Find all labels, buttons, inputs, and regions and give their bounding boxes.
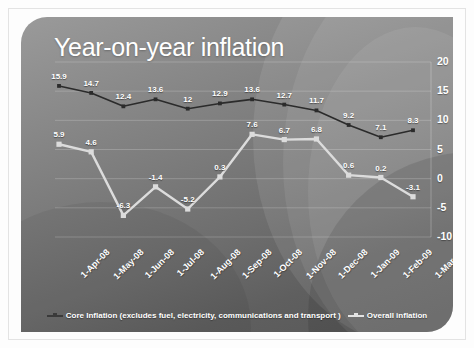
data-point-marker[interactable] <box>56 142 61 147</box>
data-point-label: 7.1 <box>375 123 386 132</box>
legend-label-core: Core Inflation (excludes fuel, electrici… <box>66 311 341 320</box>
data-point-marker[interactable] <box>121 104 125 108</box>
data-point-marker[interactable] <box>57 84 61 88</box>
data-point-label: -3.1 <box>406 183 420 192</box>
y-axis-tick-label: 0 <box>437 172 443 184</box>
legend-swatch-overall <box>348 315 364 317</box>
data-point-marker[interactable] <box>89 91 93 95</box>
data-point-marker[interactable] <box>217 174 222 179</box>
data-point-marker[interactable] <box>185 206 190 211</box>
data-point-label: 12.9 <box>212 89 228 98</box>
data-point-marker[interactable] <box>249 132 254 137</box>
gridlines-group <box>55 62 431 237</box>
data-point-label: 12.7 <box>276 91 292 100</box>
data-point-marker[interactable] <box>186 107 190 111</box>
data-point-label: 0.2 <box>375 164 386 173</box>
data-point-marker[interactable] <box>347 123 351 127</box>
data-point-marker[interactable] <box>282 137 287 142</box>
data-point-label: 12.4 <box>116 92 132 101</box>
chart-svg <box>21 17 453 332</box>
data-point-label: 6.7 <box>279 126 290 135</box>
slide-page: Year-on-year inflation -10-505101520 1-A… <box>0 0 474 348</box>
data-point-label: -5.2 <box>181 195 195 204</box>
data-point-marker[interactable] <box>153 184 158 189</box>
data-point-marker[interactable] <box>218 102 222 106</box>
data-point-label: 12 <box>183 95 192 104</box>
y-axis-tick-label: -5 <box>437 201 446 213</box>
y-axis-tick-label: -10 <box>437 230 452 242</box>
data-point-marker[interactable] <box>250 97 254 101</box>
data-point-label: 11.7 <box>309 96 324 105</box>
data-point-label: 5.9 <box>53 130 64 139</box>
y-axis-tick-label: 15 <box>437 84 449 96</box>
data-point-marker[interactable] <box>315 109 319 113</box>
data-point-label: 9.2 <box>343 111 354 120</box>
data-point-marker[interactable] <box>379 135 383 139</box>
data-point-marker[interactable] <box>346 173 351 178</box>
data-point-marker[interactable] <box>378 175 383 180</box>
data-point-marker[interactable] <box>411 128 415 132</box>
data-point-marker[interactable] <box>282 103 286 107</box>
series-line <box>59 86 413 137</box>
data-point-marker[interactable] <box>410 194 415 199</box>
series-line <box>59 134 413 215</box>
data-point-marker[interactable] <box>154 97 158 101</box>
data-point-label: -6.3 <box>116 201 130 210</box>
data-point-label: 15.9 <box>51 72 67 81</box>
data-point-label: -1.4 <box>149 173 163 182</box>
y-axis-tick-label: 10 <box>437 113 449 125</box>
data-point-label: 0.3 <box>214 163 225 172</box>
legend-label-overall: Overall inflation <box>367 311 427 320</box>
data-point-marker[interactable] <box>314 136 319 141</box>
data-point-label: 13.6 <box>148 85 164 94</box>
chart-plot-area: -10-505101520 1-Apr-081-May-081-Jun-081-… <box>21 17 453 332</box>
data-point-marker[interactable] <box>89 149 94 154</box>
legend-item-overall[interactable]: Overall inflation <box>348 311 427 320</box>
data-point-label: 8.3 <box>407 116 418 125</box>
data-point-label: 7.6 <box>247 120 258 129</box>
data-point-label: 14.7 <box>83 79 99 88</box>
y-axis-tick-label: 20 <box>437 55 449 67</box>
data-point-label: 4.6 <box>86 138 97 147</box>
legend-item-core[interactable]: Core Inflation (excludes fuel, electrici… <box>47 311 341 320</box>
data-point-label: 13.6 <box>244 85 260 94</box>
slide-canvas: Year-on-year inflation -10-505101520 1-A… <box>21 17 453 332</box>
legend-swatch-core <box>47 315 63 317</box>
series-lines-group <box>56 84 415 218</box>
data-point-label: 0.6 <box>343 161 354 170</box>
chart-legend: Core Inflation (excludes fuel, electrici… <box>21 311 453 320</box>
data-point-marker[interactable] <box>121 213 126 218</box>
y-axis-tick-label: 5 <box>437 143 443 155</box>
data-point-label: 6.8 <box>311 125 322 134</box>
